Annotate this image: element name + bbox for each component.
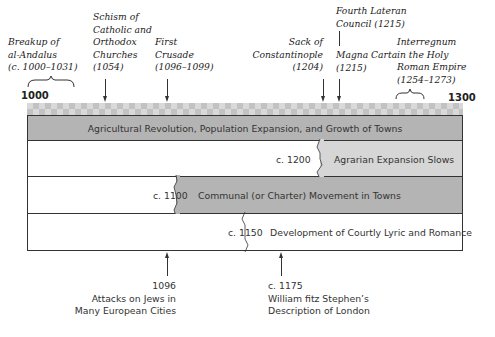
event-label-attacks-on-jews: 1096 Attacks on Jews in Many European Ci… — [50, 280, 176, 318]
timeline-strip — [27, 103, 463, 115]
event-year: c. 1175 — [268, 280, 370, 293]
label-line: Attacks on Jews in — [50, 293, 176, 306]
arrow-fitz-stephen — [281, 256, 282, 276]
arrow-down-icon — [321, 96, 325, 102]
label-line: (c. 1000–1031) — [8, 61, 78, 74]
band-courtly-lyric: c. 1150 Development of Courtly Lyric and… — [28, 214, 462, 250]
event-label-first-crusade: First Crusade (1096–1099) — [155, 36, 214, 74]
arrow-magna-carta — [339, 79, 340, 97]
band-label: Agrarian Expansion Slows — [334, 153, 454, 164]
end-year-label: 1300 — [448, 92, 476, 103]
label-line: Roman Empire — [397, 61, 467, 74]
arrow-down-icon — [337, 96, 341, 102]
label-line: First — [155, 36, 214, 49]
band-start-label: c. 1150 — [228, 227, 263, 238]
zigzag-break-icon — [316, 139, 324, 179]
label-line: (1204) — [273, 61, 323, 74]
label-line: Interregnum — [397, 36, 467, 49]
event-label-fourth-lateran-council: Fourth Lateran Council (1215) — [336, 5, 407, 30]
arrow-sack-of-constantinople — [323, 79, 324, 97]
label-line: (1096–1099) — [155, 61, 214, 74]
band-label: Communal (or Charter) Movement in Towns — [198, 190, 401, 201]
event-label-fitz-stephen: c. 1175 William fitz Stephen’s Descripti… — [268, 280, 370, 318]
label-line: Crusade — [155, 49, 214, 62]
arrow-attacks-on-jews — [167, 256, 168, 276]
band-agricultural-revolution: Agricultural Revolution, Population Expa… — [28, 116, 462, 141]
event-label-sack-of-constantinople: Sack of Constantinople (1204) — [273, 36, 323, 74]
label-line: Catholic and — [93, 24, 152, 37]
arrow-down-icon — [103, 96, 107, 102]
label-line: William fitz Stephen’s — [268, 293, 370, 306]
label-line: al-Andalus — [8, 49, 78, 62]
label-line: (1215) — [336, 62, 397, 75]
label-line: Orthodox — [93, 36, 152, 49]
band-communal-movement: c. 1100 Communal (or Charter) Movement i… — [28, 177, 462, 214]
arrow-schism — [105, 79, 106, 97]
label-line: (1254–1273) — [397, 74, 467, 87]
label-line: Sack of — [273, 36, 323, 49]
brace-al-andalus-icon — [27, 76, 75, 88]
event-year: 1096 — [50, 280, 176, 293]
event-label-schism: Schism of Catholic and Orthodox Churches… — [93, 11, 152, 74]
label-line: Churches — [93, 49, 152, 62]
connector-fourth-lateran — [339, 31, 340, 46]
event-label-magna-carta: Magna Carta (1215) — [336, 49, 397, 74]
label-line: (1054) — [93, 61, 152, 74]
label-line: Breakup of — [8, 36, 78, 49]
band-start-label: c. 1100 — [153, 190, 188, 201]
event-label-interregnum: Interregnum in the Holy Roman Empire (12… — [397, 36, 467, 86]
label-line: Many European Cities — [50, 305, 176, 318]
band-label: Development of Courtly Lyric and Romance — [270, 227, 472, 238]
band-start-label: c. 1200 — [276, 153, 311, 164]
start-year-label: 1000 — [21, 90, 49, 101]
label-line: Fourth Lateran — [336, 5, 407, 18]
label-line: Council (1215) — [336, 18, 407, 31]
label-line: Constantinople — [246, 49, 323, 62]
label-line: Description of London — [268, 305, 370, 318]
brace-interregnum-icon — [395, 88, 425, 100]
band-label: Agricultural Revolution, Population Expa… — [28, 123, 462, 134]
timeline-bands: Agricultural Revolution, Population Expa… — [27, 115, 463, 251]
label-line: Magna Carta — [336, 49, 397, 62]
label-line: Schism of — [93, 11, 152, 24]
arrow-first-crusade — [167, 79, 168, 97]
label-line: in the Holy — [397, 49, 467, 62]
event-label-al-andalus: Breakup of al-Andalus (c. 1000–1031) — [8, 36, 78, 74]
arrow-down-icon — [165, 96, 169, 102]
band-agrarian-expansion-slows: c. 1200 Agrarian Expansion Slows — [28, 141, 462, 177]
